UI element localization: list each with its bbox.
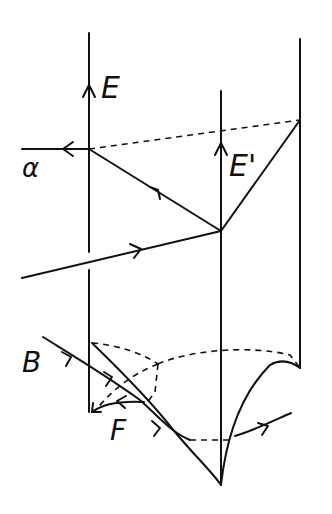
dashed-arc-back — [158, 350, 300, 368]
diagram-canvas: E E' α B F — [0, 0, 332, 514]
incoming-ray — [22, 231, 221, 278]
dashed-vertical-front — [146, 364, 158, 404]
arrow-right-icon-outgoing — [258, 423, 268, 435]
label-E-prime: E' — [229, 148, 256, 183]
dashed-diagonal — [96, 364, 158, 410]
F-branch-curve — [92, 402, 144, 412]
label-alpha: α — [22, 153, 39, 183]
label-beta: B — [22, 346, 41, 379]
ray-to-alpha — [89, 149, 221, 231]
arrow-icon-beta-3 — [152, 421, 160, 436]
label-F: F — [110, 414, 127, 447]
dashed-connector-top — [89, 120, 300, 149]
label-E: E — [101, 70, 120, 105]
